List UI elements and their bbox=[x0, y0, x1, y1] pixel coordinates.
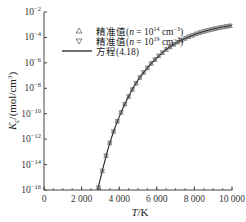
chart: 10−210−410−610−810−1010−1210−1410−16 02 … bbox=[0, 0, 246, 222]
legend-triangle-down-icon bbox=[76, 39, 82, 44]
y-tick-label: 10−16 bbox=[21, 183, 41, 195]
y-tick-label: 10−8 bbox=[25, 81, 41, 93]
x-tick-label: 2 000 bbox=[71, 194, 93, 204]
y-axis-ticks: 10−210−410−610−810−1010−1210−1410−16 bbox=[21, 5, 47, 195]
y-tick-label: 10−10 bbox=[21, 107, 41, 119]
x-tick-label: 8 000 bbox=[184, 194, 206, 204]
x-tick-label: 4 000 bbox=[109, 194, 131, 204]
y-tick-label: 10−14 bbox=[21, 158, 41, 170]
y-tick-label: 10−4 bbox=[25, 30, 42, 42]
x-axis-title: T/K bbox=[131, 206, 148, 218]
legend-triangle-up-icon bbox=[76, 28, 82, 33]
legend-label: 方程(4.18) bbox=[96, 46, 139, 58]
x-tick-label: 0 bbox=[42, 194, 47, 204]
y-axis-title: Kc/(mol/cm3) bbox=[6, 72, 21, 132]
x-axis-ticks: 02 0004 0006 0008 00010 000 bbox=[42, 187, 246, 205]
x-tick-label: 6 000 bbox=[146, 194, 168, 204]
x-tick-label: 10 000 bbox=[219, 194, 245, 204]
legend: 精准值(n = 1014 cm−3)精准值(n = 1019 cm−3)方程(4… bbox=[62, 26, 183, 58]
y-tick-label: 10−12 bbox=[21, 132, 41, 144]
y-tick-label: 10−6 bbox=[25, 56, 42, 68]
y-tick-label: 10−2 bbox=[25, 5, 41, 17]
